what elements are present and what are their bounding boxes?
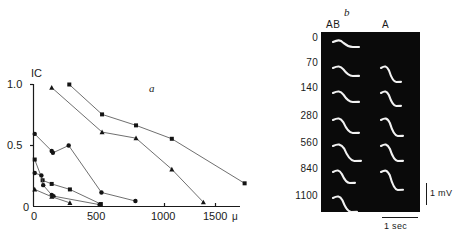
data-point: [68, 187, 72, 191]
data-point: [51, 151, 55, 155]
row-label-840: 840: [286, 164, 318, 174]
x-tick-label-1000: 1000: [151, 210, 175, 222]
scale-label-mv: 1 mV: [430, 188, 452, 198]
row-label-280: 280: [286, 111, 318, 121]
row-label-0: 0: [286, 33, 318, 43]
x-tick-label-0: 0: [31, 210, 37, 222]
trace-ab-840: [333, 170, 355, 183]
data-point: [243, 181, 247, 185]
row-label-560: 560: [286, 138, 318, 148]
series-series-3-circles-mid: [33, 132, 138, 203]
data-point: [33, 171, 37, 175]
scale-bar-vertical: [426, 183, 427, 205]
row-label-1100: 1100: [284, 191, 318, 201]
row-label-140: 140: [286, 83, 318, 93]
trace-a-560: [381, 145, 403, 161]
y-tick-label-1: 1.0: [7, 78, 22, 90]
y-axis-title: IC: [31, 67, 42, 79]
y-tick-label-05: 0.5: [7, 139, 22, 151]
column-label-ab: AB: [326, 19, 340, 30]
trace-svg: [321, 32, 420, 212]
data-point: [66, 143, 70, 147]
trace-ab-0: [333, 40, 359, 47]
data-point: [100, 112, 104, 116]
data-point: [170, 137, 174, 141]
trace-ab-70: [333, 66, 359, 76]
data-point: [67, 83, 71, 87]
series-series-2-triangles-upper: [49, 85, 206, 204]
data-series-layer: [32, 83, 246, 207]
trace-ab-1100: [333, 197, 357, 212]
scale-bar-horizontal: [382, 217, 418, 218]
panel-b-letter: b: [344, 6, 350, 18]
trace-a-840: [381, 171, 403, 190]
trace-a-70: [381, 67, 401, 82]
panel-a-graph: IC 1.0 0.5 0 0 500 1000 1500 μ a: [0, 0, 262, 252]
data-point: [50, 182, 54, 186]
trace-ab-560: [333, 145, 361, 161]
trace-plate-background: [321, 32, 420, 212]
data-point: [33, 132, 37, 136]
column-label-a: A: [382, 19, 389, 30]
scale-label-sec: 1 sec: [384, 221, 407, 231]
panel-b-traces: b AB A 0 70 140 280 560 840 1100 1 mV 1 …: [280, 0, 459, 252]
data-point: [134, 123, 138, 127]
data-point: [39, 173, 43, 177]
trace-ab-140: [333, 91, 359, 102]
data-point: [133, 199, 137, 203]
x-axis-unit: μ: [232, 211, 238, 222]
panel-a-letter: a: [149, 82, 155, 94]
x-tick-label-500: 500: [87, 210, 105, 222]
plot-svg: IC 1.0 0.5 0 0 500 1000 1500 μ a: [0, 0, 262, 252]
data-point: [49, 85, 54, 90]
data-point: [41, 183, 45, 187]
data-point: [97, 202, 101, 206]
trace-a-280: [381, 119, 403, 136]
trace-layer: [333, 40, 403, 212]
trace-ab-280: [333, 119, 359, 133]
y-tick-label-0: 0: [23, 201, 29, 213]
trace-a-140: [381, 92, 401, 106]
row-label-70: 70: [286, 58, 318, 68]
x-tick-label-1500: 1500: [203, 210, 227, 222]
series-series-1-squares-upper: [67, 83, 246, 186]
data-point: [99, 190, 103, 194]
data-point: [33, 158, 37, 162]
series-series-6-triangles-lower: [32, 187, 72, 205]
